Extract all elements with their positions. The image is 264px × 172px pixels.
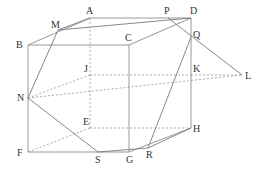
- vertex-label-d: D: [190, 5, 197, 16]
- section-line-rs: [98, 148, 148, 152]
- hidden-edge-ef: [28, 128, 90, 152]
- cube-section-diagram: ADBCJKEHFGMPQLNSR: [0, 0, 264, 172]
- vertex-label-b: B: [16, 39, 23, 50]
- vertex-labels: ADBCJKEHFGMPQLNSR: [16, 5, 251, 165]
- vertex-label-c: C: [125, 32, 132, 43]
- vertex-label-a: A: [86, 5, 94, 16]
- vertex-label-m: M: [51, 19, 60, 30]
- vertex-label-l: L: [245, 70, 251, 81]
- vertex-label-j: J: [84, 63, 88, 74]
- section-line-mn: [28, 30, 58, 98]
- hidden-edge-nj: [28, 75, 90, 98]
- vertex-label-s: S: [95, 154, 101, 165]
- vertex-label-n: N: [17, 92, 24, 103]
- hidden-edges: [28, 18, 242, 152]
- vertex-label-g: G: [126, 154, 133, 165]
- vertex-label-p: P: [164, 5, 170, 16]
- edge-cd: [129, 18, 191, 45]
- solid-edges: [28, 18, 191, 152]
- section-line-pl: [168, 18, 242, 75]
- vertex-label-q: Q: [193, 29, 201, 40]
- vertex-label-k: K: [193, 63, 201, 74]
- vertex-label-r: R: [146, 149, 153, 160]
- vertex-label-h: H: [193, 123, 200, 134]
- section-lines: [28, 18, 242, 152]
- vertex-label-e: E: [83, 116, 89, 127]
- vertex-label-f: F: [17, 147, 23, 158]
